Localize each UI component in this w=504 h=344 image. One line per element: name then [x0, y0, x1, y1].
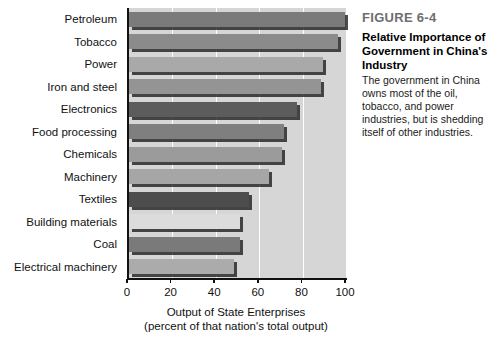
category-label: Chemicals — [0, 143, 122, 166]
tick-label: 20 — [164, 286, 177, 298]
bar-row — [129, 8, 347, 31]
x-axis-title-main: Output of State Enterprises — [96, 305, 376, 319]
bar — [129, 79, 321, 94]
figure-page: PetroleumTobaccoPowerIron and steelElect… — [0, 0, 504, 344]
bar-row — [129, 53, 347, 76]
bar-row — [129, 166, 347, 189]
figure-caption: FIGURE 6-4 Relative Importance of Govern… — [362, 10, 498, 139]
bar — [129, 192, 249, 207]
category-label: Electrical machinery — [0, 256, 122, 279]
category-label: Machinery — [0, 166, 122, 189]
category-label: Tobacco — [0, 31, 122, 54]
bar — [129, 12, 345, 27]
category-label: Textiles — [0, 188, 122, 211]
tick-label: 0 — [124, 286, 130, 298]
x-axis-tick-labels: 020406080100 — [127, 286, 345, 302]
tick-mark — [344, 279, 346, 283]
bar-row — [129, 211, 347, 234]
bar — [129, 124, 284, 139]
tick-label: 40 — [208, 286, 221, 298]
category-label: Electronics — [0, 98, 122, 121]
plot-area — [127, 8, 347, 280]
bar-row — [129, 143, 347, 166]
figure-number: FIGURE 6-4 — [362, 10, 498, 25]
bar — [129, 259, 234, 274]
tick-mark — [301, 279, 303, 283]
x-axis-title-sub: (percent of that nation's total output) — [96, 319, 376, 333]
bar-row — [129, 98, 347, 121]
figure-title: Relative Importance of Government in Chi… — [362, 30, 498, 72]
category-label: Food processing — [0, 121, 122, 144]
category-label: Coal — [0, 233, 122, 256]
bar — [129, 214, 240, 229]
bar — [129, 237, 240, 252]
bar-series — [129, 8, 347, 278]
tick-label: 60 — [251, 286, 264, 298]
bar — [129, 147, 282, 162]
bar-row — [129, 256, 347, 279]
tick-label: 100 — [335, 286, 354, 298]
chart-figure: PetroleumTobaccoPowerIron and steelElect… — [0, 0, 358, 344]
bar — [129, 34, 338, 49]
bar-row — [129, 121, 347, 144]
bar-row — [129, 76, 347, 99]
tick-mark — [213, 279, 215, 283]
figure-description: The government in China owns most of the… — [362, 74, 498, 139]
bar — [129, 57, 323, 72]
tick-label: 80 — [295, 286, 308, 298]
bar — [129, 102, 297, 117]
category-axis-labels: PetroleumTobaccoPowerIron and steelElect… — [0, 8, 122, 278]
category-label: Building materials — [0, 211, 122, 234]
bar-row — [129, 233, 347, 256]
bar-row — [129, 188, 347, 211]
tick-mark — [257, 279, 259, 283]
bar-row — [129, 31, 347, 54]
tick-mark — [170, 279, 172, 283]
tick-mark — [126, 279, 128, 283]
category-label: Petroleum — [0, 8, 122, 31]
x-axis-title: Output of State Enterprises (percent of … — [96, 305, 376, 333]
bar — [129, 169, 269, 184]
category-label: Iron and steel — [0, 76, 122, 99]
category-label: Power — [0, 53, 122, 76]
